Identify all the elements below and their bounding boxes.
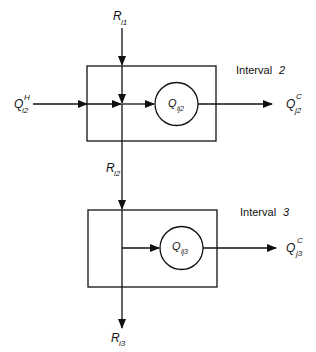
svg-text:i1: i1 (121, 18, 127, 27)
svg-text:Q: Q (286, 241, 295, 255)
residual-i1-label: R i1 (113, 9, 127, 27)
interval-3-label: Interval 3 (240, 206, 290, 218)
svg-text:i3: i3 (119, 339, 126, 348)
interval-2-label: Interval 2 (236, 64, 285, 76)
svg-text:3: 3 (283, 206, 290, 218)
svg-text:Q: Q (286, 97, 295, 111)
svg-text:i2: i2 (22, 106, 29, 115)
svg-text:j3: j3 (295, 249, 303, 258)
svg-text:H: H (24, 93, 30, 102)
heat-cascade-diagram: R i1 Q H i2 Q ij2 Q C j2 Interval 2 R i2 (0, 0, 316, 352)
svg-text:ij3: ij3 (181, 248, 188, 256)
hot-input-i2-label: Q H i2 (14, 93, 30, 115)
svg-text:Q: Q (172, 240, 181, 252)
cold-output-j3-label: Q C j3 (286, 236, 303, 258)
svg-text:Q: Q (168, 97, 177, 109)
svg-text:C: C (296, 92, 302, 101)
svg-text:C: C (297, 236, 303, 245)
svg-text:i2: i2 (114, 169, 121, 178)
svg-text:Interval: Interval (240, 206, 276, 218)
cold-output-j2-label: Q C j2 (286, 92, 302, 115)
svg-text:Interval: Interval (236, 64, 272, 76)
svg-text:ij2: ij2 (177, 105, 184, 113)
residual-i3-label: R i3 (111, 331, 126, 348)
residual-i2-label: R i2 (106, 161, 121, 178)
svg-text:j2: j2 (294, 106, 302, 115)
svg-text:2: 2 (278, 64, 285, 76)
